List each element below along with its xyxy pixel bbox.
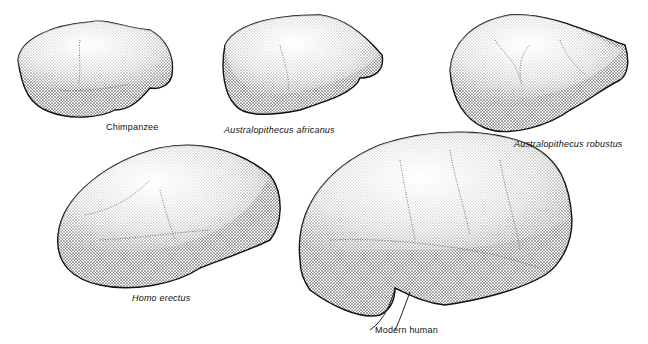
label-homo-erectus: Homo erectus [132,293,190,303]
australopithecus-robustus-brain [450,15,628,132]
label-chimpanzee: Chimpanzee [106,122,159,132]
chimpanzee-brain [18,21,173,117]
label-modern-human: Modern human [375,325,438,335]
homo-erectus-brain [58,145,280,287]
label-australopithecus-robustus: Australopithecus robustus [514,139,623,149]
modern-human-brain [299,132,572,330]
label-australopithecus-africanus: Australopithecus africanus [224,125,335,135]
brain-evolution-figure: Chimpanzee Australopithecus africanus Au… [0,0,648,344]
brain-illustrations [0,0,648,344]
australopithecus-africanus-brain [223,15,382,114]
